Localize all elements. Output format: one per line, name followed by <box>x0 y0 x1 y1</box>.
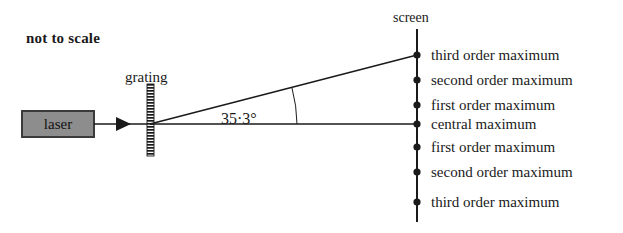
maximum-dot <box>413 51 420 58</box>
diffraction-grating-diagram: laser not to scale grating screen 35·3° … <box>0 0 623 233</box>
grating-label: grating <box>125 70 168 85</box>
beam-direction-arrowhead <box>116 117 131 131</box>
diffraction-angle-label: 35·3° <box>221 111 257 127</box>
maximum-dot <box>413 120 420 127</box>
maximum-dot <box>413 101 420 108</box>
maximum-label-third-order-lower: third order maximum <box>431 195 559 210</box>
maximum-label-second-order-lower: second order maximum <box>431 165 573 180</box>
maximum-label-second-order-upper: second order maximum <box>431 73 573 88</box>
maximum-dot <box>413 198 420 205</box>
angle-arc <box>292 88 297 124</box>
maximum-dot <box>413 76 420 83</box>
not-to-scale-note: not to scale <box>26 31 100 46</box>
laser-source-label: laser <box>22 111 94 137</box>
maximum-label-first-order-lower: first order maximum <box>431 140 555 155</box>
maximum-label-first-order-upper: first order maximum <box>431 98 555 113</box>
screen-label: screen <box>393 11 429 25</box>
maximum-dot <box>413 168 420 175</box>
maximum-label-central: central maximum <box>431 117 536 132</box>
third-order-beam <box>150 55 417 124</box>
diffraction-grating-bar <box>147 84 154 156</box>
maximum-label-third-order-upper: third order maximum <box>431 48 559 63</box>
maximum-dot <box>413 143 420 150</box>
